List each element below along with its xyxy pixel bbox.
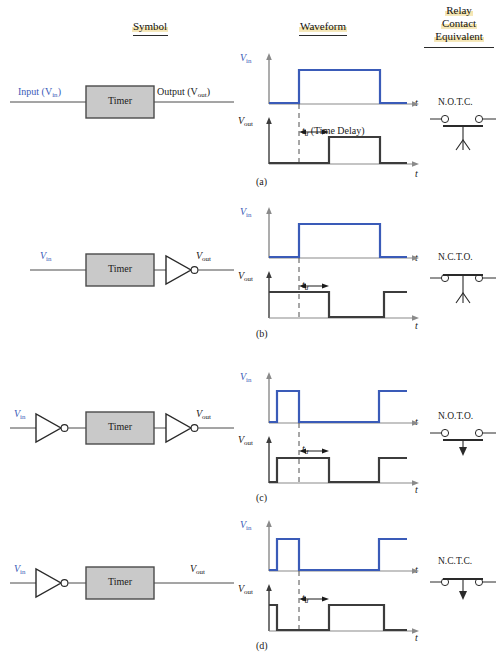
row-a-vout-trace	[269, 137, 407, 163]
row-d-timer-label: Timer	[96, 576, 144, 587]
row-a-td-arrow-left	[299, 130, 306, 135]
row-a-vout-axis-label: Vout	[238, 115, 253, 128]
row-d-td-arrow-right	[322, 597, 329, 602]
row-c-td-arrow-right	[322, 449, 329, 454]
row-c-input-inverter-bubble	[61, 425, 68, 432]
row-b-vout-axis-label: Vout	[238, 270, 253, 283]
row-d-relay-time-delay-arrowhead-down	[459, 591, 467, 600]
row-b-relay-symbol	[428, 265, 500, 313]
row-b-vout-y-arrow	[266, 271, 272, 278]
column-header-relay-line2: Contact	[441, 17, 477, 29]
row-d-vin-x-arrow	[412, 568, 419, 574]
row-b-vin-axis-label: Vin	[240, 206, 252, 219]
row-c-relay-left-contact-circle	[441, 429, 448, 436]
timer-relay-figure: Symbol Waveform Relay Contact Equivalent…	[0, 0, 504, 669]
column-header-symbol-label: Symbol	[132, 20, 168, 32]
row-d-vout-axis-label: Vout	[238, 583, 253, 596]
row-c-caption: (c)	[256, 492, 267, 503]
row-c-vout-y-arrow	[266, 436, 272, 443]
row-c-output-inverter-bubble	[191, 425, 198, 432]
row-c-relay-symbol	[428, 424, 500, 460]
row-b-vin-y-arrow	[266, 207, 272, 214]
row-c-vin-x-arrow	[412, 420, 419, 426]
row-b-td-arrow-right	[322, 284, 329, 289]
row-a-td-arrow-right	[322, 130, 329, 135]
row-a-relay-right-contact-circle	[475, 115, 482, 122]
row-a-relay-code: N.O.T.C.	[438, 97, 473, 107]
row-c-input-inverter-triangle	[36, 414, 61, 442]
row-d-vout-x-arrow	[412, 628, 419, 634]
row-d-vin-trace	[269, 539, 407, 570]
row-b-relay-code: N.C.T.O.	[438, 252, 473, 262]
column-header-waveform-label: Waveform	[299, 20, 347, 32]
row-c-vout-x-arrow	[412, 480, 419, 486]
row-b-vin-x-arrow	[412, 255, 419, 261]
row-a-relay-symbol	[428, 110, 500, 158]
row-d-td-arrow-left	[299, 597, 306, 602]
row-c-td-arrow-left	[299, 449, 306, 454]
row-c-relay-right-contact-circle	[475, 429, 482, 436]
row-d-relay-symbol	[428, 569, 500, 605]
row-c-vout-axis-label: Vout	[238, 434, 253, 447]
column-header-relay: Relay Contact Equivalent	[415, 4, 503, 43]
row-b-output-inverter-bubble	[191, 267, 198, 274]
column-header-waveform: Waveform	[278, 20, 368, 33]
column-header-relay-line1: Relay	[445, 4, 473, 16]
row-c-vin-trace	[269, 391, 407, 422]
row-a-vin-x-arrow	[412, 101, 419, 107]
row-a-waveform-plot	[255, 52, 430, 177]
column-header-relay-line3: Equivalent	[434, 30, 484, 42]
column-header-waveform-underline	[299, 35, 347, 36]
row-c-timer-label: Timer	[96, 421, 144, 432]
row-c-waveform-plot	[255, 371, 430, 496]
row-b-caption: (b)	[256, 328, 268, 339]
row-b-timer-label: Timer	[96, 263, 144, 274]
row-b-vout-x-arrow	[412, 315, 419, 321]
column-header-relay-underline	[424, 47, 494, 48]
column-header-symbol-underline	[133, 35, 168, 36]
row-a-vin-axis-label: Vin	[240, 52, 252, 65]
row-b-td-arrow-left	[299, 284, 306, 289]
row-c-vout-trace	[269, 458, 407, 482]
row-b-waveform-plot	[255, 206, 430, 331]
row-d-input-inverter-triangle	[36, 569, 61, 597]
row-a-relay-left-contact-circle	[441, 115, 448, 122]
row-d-input-inverter-bubble	[61, 580, 68, 587]
row-b-vin-trace	[269, 224, 407, 257]
row-d-vin-y-arrow	[266, 520, 272, 527]
row-c-vin-axis-label: Vin	[240, 371, 252, 384]
row-a-timer-label: Timer	[96, 95, 144, 106]
row-a-caption: (a)	[256, 176, 267, 187]
row-d-relay-code: N.C.T.C.	[438, 556, 472, 566]
row-d-caption: (d)	[256, 640, 268, 651]
row-a-vin-trace	[269, 70, 407, 103]
row-d-vin-axis-label: Vin	[240, 519, 252, 532]
row-a-vin-y-arrow	[266, 53, 272, 60]
row-d-vout-trace	[269, 605, 407, 630]
row-b-output-inverter-triangle	[166, 256, 191, 284]
column-header-symbol: Symbol	[110, 20, 190, 33]
row-a-vout-x-arrow	[412, 161, 419, 167]
row-b-vout-trace	[269, 292, 407, 317]
row-c-relay-code: N.O.T.O.	[438, 411, 473, 421]
row-d-vout-y-arrow	[266, 584, 272, 591]
row-c-output-inverter-triangle	[166, 414, 191, 442]
row-d-waveform-plot	[255, 519, 430, 644]
row-c-relay-time-delay-arrowhead-down	[459, 447, 467, 456]
row-c-vin-y-arrow	[266, 372, 272, 379]
row-a-vout-y-arrow	[266, 117, 272, 124]
